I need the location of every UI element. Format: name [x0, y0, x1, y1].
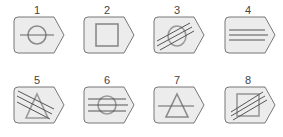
card-8[interactable]: 8	[223, 74, 279, 126]
card-label: 6	[82, 74, 132, 86]
card-label: 3	[152, 4, 202, 16]
card-label: 4	[223, 4, 273, 16]
circle-with-horizontal-lines-icon	[82, 86, 138, 126]
card-1[interactable]: 1	[12, 4, 68, 56]
card-label: 8	[223, 74, 273, 86]
card-label: 2	[82, 4, 132, 16]
card-7[interactable]: 7	[152, 74, 208, 126]
square-icon	[82, 16, 138, 56]
card-label: 1	[12, 4, 62, 16]
card-label: 5	[12, 74, 62, 86]
square-with-diagonal-lines-icon	[223, 86, 279, 126]
circle-with-horizontal-line-icon	[12, 16, 68, 56]
card-label: 7	[152, 74, 202, 86]
circle-with-diagonal-lines-icon	[152, 16, 208, 56]
three-horizontal-lines-icon	[223, 16, 279, 56]
card-2[interactable]: 2	[82, 4, 138, 56]
triangle-with-diagonal-lines-icon	[12, 86, 68, 126]
card-3[interactable]: 3	[152, 4, 208, 56]
triangle-with-horizontal-line-icon	[152, 86, 208, 126]
card-6[interactable]: 6	[82, 74, 138, 126]
card-5[interactable]: 5	[12, 74, 68, 126]
card-4[interactable]: 4	[223, 4, 279, 56]
